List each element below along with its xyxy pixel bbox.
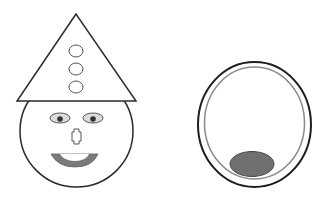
- dark-ellipse: [230, 152, 274, 177]
- hat-button-icon: [69, 81, 83, 93]
- hat-button-icon: [69, 63, 83, 75]
- clown-figure: [17, 14, 136, 187]
- drawing-canvas: [0, 0, 325, 197]
- left-pupil-icon: [57, 116, 63, 122]
- hat-button-icon: [69, 45, 83, 57]
- ring-figure: [198, 62, 311, 187]
- right-pupil-icon: [90, 116, 96, 122]
